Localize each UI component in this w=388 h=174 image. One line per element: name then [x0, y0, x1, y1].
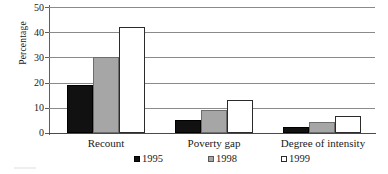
y-tick-label-30: 30: [22, 53, 44, 63]
legend-swatch-icon-1995: [134, 156, 140, 162]
bar-degree-of-intensity-1999[interactable]: [335, 116, 361, 133]
x-axis-category-labels: Recount Poverty gap Degree of intensity: [49, 136, 375, 152]
legend-item-1995[interactable]: 1995: [134, 152, 163, 165]
bar-poverty-gap-1998[interactable]: [201, 110, 227, 133]
y-tick-label-0: 0: [22, 128, 44, 138]
bars-layer: [49, 7, 375, 133]
legend-item-1998[interactable]: 1998: [208, 152, 237, 165]
x-category-label-recount: Recount: [56, 136, 156, 150]
y-tick-label-20: 20: [22, 78, 44, 88]
page-artifact-mark: [14, 167, 36, 169]
x-axis-line: [49, 133, 376, 134]
legend-item-1999[interactable]: 1999: [281, 152, 310, 165]
legend-label-1995: 1995: [142, 152, 163, 165]
legend-label-1999: 1999: [289, 152, 310, 165]
legend-swatch-icon-1999: [281, 156, 287, 162]
y-tick-label-10: 10: [22, 103, 44, 113]
bar-degree-of-intensity-1998[interactable]: [309, 122, 335, 133]
legend-label-1998: 1998: [216, 152, 237, 165]
x-category-label-degree-of-intensity: Degree of intensity: [268, 136, 378, 150]
legend-swatch-icon-1998: [208, 156, 214, 162]
bar-recount-1998[interactable]: [93, 57, 119, 133]
bar-degree-of-intensity-1995[interactable]: [283, 127, 309, 133]
bar-recount-1999[interactable]: [119, 27, 145, 133]
bar-chart: Percentage 0 10 20 30 40 50: [0, 0, 388, 174]
bar-poverty-gap-1999[interactable]: [227, 100, 253, 133]
bar-recount-1995[interactable]: [67, 85, 93, 133]
y-tick-label-50: 50: [22, 3, 44, 13]
y-tickmark-0: [45, 133, 49, 134]
x-category-label-poverty-gap: Poverty gap: [164, 136, 264, 150]
y-tick-label-40: 40: [22, 28, 44, 38]
y-axis-tick-labels: 0 10 20 30 40 50: [22, 0, 44, 140]
chart-legend: 1995 1998 1999: [0, 152, 388, 168]
bar-poverty-gap-1995[interactable]: [175, 120, 201, 133]
